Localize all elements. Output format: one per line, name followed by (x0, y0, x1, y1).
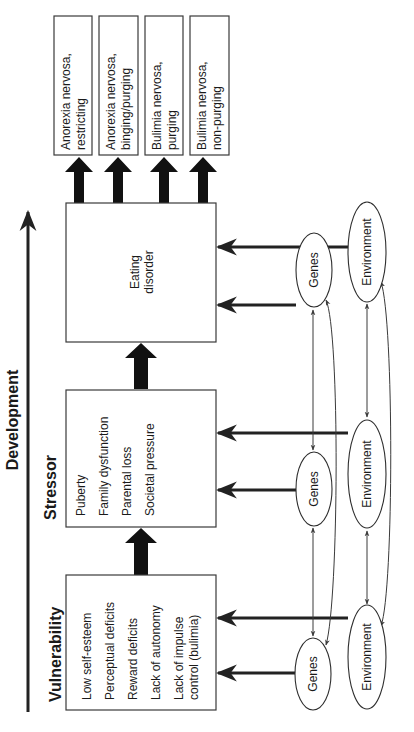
svg-text:disorder: disorder (142, 250, 156, 293)
vulnerability-title: Vulnerability (47, 606, 64, 702)
svg-text:Parental loss: Parental loss (120, 447, 134, 516)
block-arrow-icon (104, 157, 132, 203)
genes-node-vulnerability: Genes (295, 638, 331, 710)
svg-text:Anorexia nervosa,: Anorexia nervosa, (59, 53, 73, 150)
svg-text:Environment: Environment (360, 218, 374, 286)
svg-text:binging/purging: binging/purging (119, 68, 133, 150)
environment-node-vulnerability: Environment (348, 605, 386, 709)
svg-text:Bulimia nervosa,: Bulimia nervosa, (150, 61, 164, 150)
outcome-anorexia-binging-purging: Anorexia nervosa, binging/purging (99, 16, 138, 155)
block-arrow-icon (150, 157, 178, 203)
svg-text:Genes: Genes (307, 471, 321, 506)
svg-text:Perceptual deficits: Perceptual deficits (103, 602, 117, 700)
svg-text:Lack of impulse: Lack of impulse (172, 616, 186, 700)
development-label: Development (4, 369, 21, 470)
svg-text:control (bulimia): control (bulimia) (187, 615, 201, 700)
svg-text:Environment: Environment (360, 623, 374, 691)
svg-text:Societal pressure: Societal pressure (143, 423, 157, 516)
block-arrow-icon (65, 157, 93, 203)
stressor-box: Stressor Puberty Family dysfunction Pare… (42, 390, 216, 527)
svg-text:Anorexia nervosa,: Anorexia nervosa, (104, 53, 118, 150)
outcome-anorexia-restricting: Anorexia nervosa, restricting (54, 16, 92, 155)
svg-text:Reward deficits: Reward deficits (126, 618, 140, 700)
block-arrow-icon (189, 157, 217, 203)
outcome-arrows (65, 157, 217, 203)
svg-text:Eating: Eating (128, 255, 142, 289)
stressor-title: Stressor (42, 455, 59, 520)
genes-node-stressor: Genes (296, 452, 332, 526)
outcome-bulimia-non-purging: Bulimia nervosa, non-purging (190, 16, 229, 155)
svg-text:non-purging: non-purging (210, 86, 224, 150)
svg-text:Puberty: Puberty (74, 475, 88, 516)
svg-text:Bulimia nervosa,: Bulimia nervosa, (195, 61, 209, 150)
svg-text:Environment: Environment (360, 440, 374, 508)
factor-nodes: Genes Environment Genes Environment Gene… (295, 202, 386, 710)
genes-node-eating-disorder: Genes (296, 233, 332, 307)
development-axis: Development (4, 212, 28, 712)
vulnerability-box: Vulnerability Low self-esteem Perceptual… (47, 575, 216, 710)
outcome-bulimia-purging: Bulimia nervosa, purging (145, 16, 183, 155)
block-arrow-icon (125, 343, 157, 389)
svg-text:Low self-esteem: Low self-esteem (80, 613, 94, 700)
eating-disorder-development-diagram: Development Anorexia nervosa, restrictin… (0, 0, 414, 732)
svg-text:Genes: Genes (306, 656, 320, 691)
environment-node-stressor: Environment (348, 420, 386, 528)
svg-text:purging: purging (165, 110, 179, 150)
environment-node-eating-disorder: Environment (348, 202, 386, 302)
svg-text:Family dysfunction: Family dysfunction (97, 417, 111, 516)
block-arrow-icon (125, 528, 157, 575)
svg-text:Lack of autonomy: Lack of autonomy (149, 605, 163, 700)
outcome-boxes: Anorexia nervosa, restricting Anorexia n… (54, 16, 229, 155)
svg-text:Genes: Genes (307, 252, 321, 287)
svg-text:restricting: restricting (74, 98, 88, 150)
eating-disorder-box: Eating disorder (66, 203, 216, 342)
